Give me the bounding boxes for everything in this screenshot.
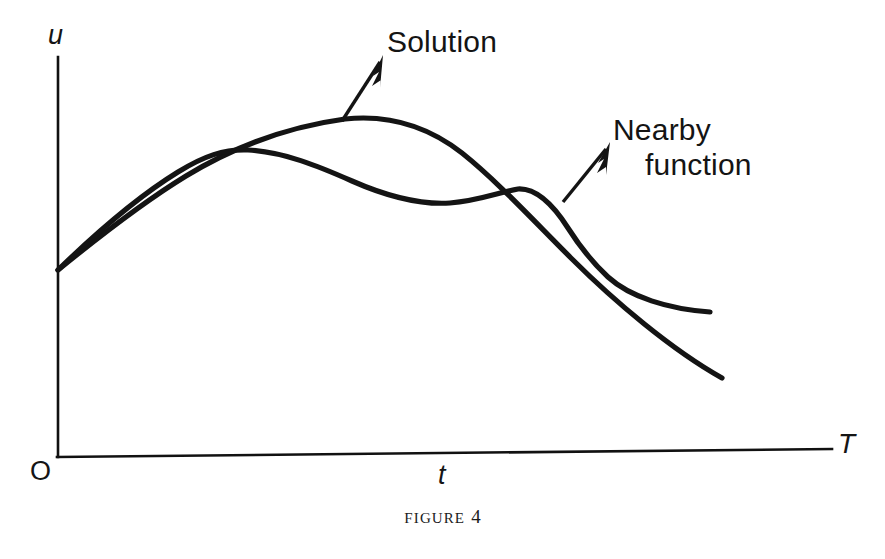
- x-axis: [57, 449, 832, 457]
- nearby-leader-arrow: [563, 142, 610, 202]
- solution-leader-arrow: [342, 55, 383, 121]
- figure-caption-word: Figure: [404, 504, 465, 528]
- figure-root: u t T O Solution Nearby function Figure4: [0, 0, 885, 559]
- annotation-nearby-line-1: Nearby: [613, 113, 711, 146]
- solution-leader-line: [342, 62, 380, 121]
- figure-caption-number: 4: [471, 506, 481, 527]
- origin-label: O: [30, 458, 51, 485]
- annotation-solution-text: Solution: [387, 25, 497, 58]
- y-axis-label: u: [48, 22, 63, 49]
- figure-caption: Figure4: [0, 504, 885, 529]
- x-axis-end-label: T: [838, 430, 855, 458]
- annotation-solution: Solution: [387, 24, 497, 59]
- nearby-leader-line: [563, 149, 606, 202]
- x-axis-label: t: [438, 462, 446, 489]
- annotation-nearby-line-2: function: [613, 147, 752, 182]
- annotation-nearby-function: Nearby function: [613, 112, 752, 183]
